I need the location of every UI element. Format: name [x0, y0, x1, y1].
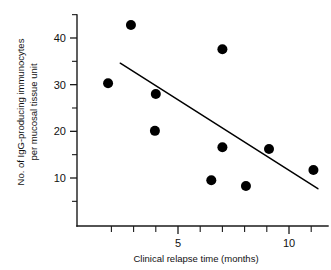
data-point: [217, 44, 227, 54]
regression-trend-line: [120, 63, 318, 189]
y-axis-title: No. of IgG-producing immunocytes per muc…: [15, 38, 39, 185]
x-axis-title: Clinical relapse time (months): [133, 253, 258, 264]
data-point: [151, 89, 161, 99]
y-axis-ticks: [70, 15, 77, 202]
y-axis-tick-labels: 10203040: [54, 32, 66, 184]
scatter-plot-figure: 10203040 510 Clinical relapse time (mont…: [0, 0, 331, 270]
x-axis-tick-labels: 510: [175, 237, 295, 249]
data-point: [308, 165, 318, 175]
axes-group: [77, 15, 328, 226]
data-point: [241, 181, 251, 191]
data-points-group: [103, 20, 318, 191]
data-point: [150, 126, 160, 136]
x-tick-label-5: 5: [175, 237, 181, 249]
y-axis-title-line-1: No. of IgG-producing immunocytes: [15, 38, 26, 185]
y-tick-label-30: 30: [54, 79, 66, 91]
y-tick-label-20: 20: [54, 125, 66, 137]
data-point: [206, 175, 216, 185]
data-point: [126, 20, 136, 30]
y-tick-label-40: 40: [54, 32, 66, 44]
y-axis-title-line-2: per mucosal tissue unit: [28, 63, 39, 161]
data-point: [103, 78, 113, 88]
data-point: [264, 144, 274, 154]
data-point: [217, 142, 227, 152]
plot-canvas: 10203040 510 Clinical relapse time (mont…: [0, 0, 331, 270]
x-tick-label-10: 10: [283, 237, 295, 249]
x-axis-ticks: [111, 226, 311, 234]
y-tick-label-10: 10: [54, 172, 66, 184]
